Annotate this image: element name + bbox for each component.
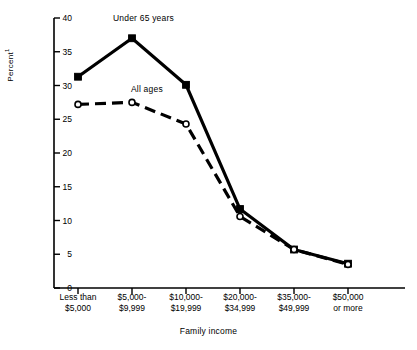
- x-axis-tick-label-line: or more: [333, 303, 364, 314]
- data-point-marker-circle: [237, 213, 243, 219]
- annotation-under-65-years: Under 65 years: [113, 13, 174, 23]
- x-axis-tick-label-line: $19,999: [169, 303, 203, 314]
- x-axis-tick-label: Less than$5,000: [60, 292, 97, 313]
- x-axis-tick-label-line: $50,000: [333, 292, 364, 303]
- data-point-marker-circle: [183, 121, 189, 127]
- data-point-marker-circle: [291, 247, 297, 253]
- x-axis-title: Family income: [0, 326, 417, 336]
- x-axis-tick-label-line: $5,000-: [118, 292, 147, 303]
- data-point-marker-square: [183, 81, 190, 88]
- x-axis-tick-label: $50,000or more: [333, 292, 364, 313]
- data-point-marker-square: [129, 35, 136, 42]
- x-axis-tick-label: $10,000-$19,999: [169, 292, 203, 313]
- data-point-marker-circle: [75, 101, 81, 107]
- annotation-all-ages: All ages: [131, 84, 163, 94]
- x-axis-tick-label-line: $49,999: [277, 303, 311, 314]
- x-axis-tick-label: $5,000-$9,999: [118, 292, 147, 313]
- x-axis-tick-label-line: $34,999: [223, 303, 257, 314]
- x-axis-tick-label: $20,000-$34,999: [223, 292, 257, 313]
- series-line-under-65-years: [78, 38, 348, 263]
- x-axis-tick-label-line: $20,000-: [223, 292, 257, 303]
- chart-container: Percent1 4035302520151050 Under 65 years…: [0, 0, 417, 350]
- x-axis-tick-label-line: $9,999: [118, 303, 147, 314]
- x-axis-tick-label-line: $5,000: [60, 303, 97, 314]
- x-axis-tick-label-line: Less than: [60, 292, 97, 303]
- x-axis-tick-label-line: $35,000-: [277, 292, 311, 303]
- data-point-marker-circle: [129, 99, 135, 105]
- data-point-marker-circle: [345, 261, 351, 267]
- data-point-marker-square: [75, 73, 82, 80]
- x-axis-tick-labels: Less than$5,000$5,000-$9,999$10,000-$19,…: [0, 292, 417, 322]
- x-axis-tick-label: $35,000-$49,999: [277, 292, 311, 313]
- x-axis-tick-label-line: $10,000-: [169, 292, 203, 303]
- series-line-all-ages: [78, 102, 348, 264]
